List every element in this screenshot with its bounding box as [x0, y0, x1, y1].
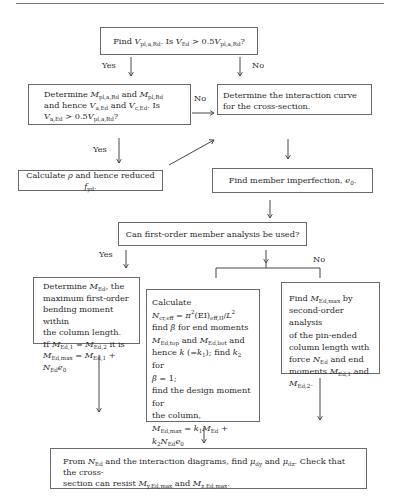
- label-no-1: No: [252, 60, 264, 70]
- node-second-order: Find MEd,max by second-order analysis of…: [281, 282, 380, 374]
- label-no-3: No: [313, 254, 325, 264]
- node-imperfection: Find member imperfection, e0.: [212, 168, 373, 193]
- node-calculate-ncr: Calculate Ncr,eff = π2(EI)eff,II/L2 find…: [146, 289, 260, 422]
- node-calc-rho: Calculate ρ and hence reduced fyd.: [18, 170, 163, 191]
- node-interaction-curve: Determine the interaction curve for the …: [217, 84, 372, 115]
- node-first-order-yes: Determine MEd, the maximum first-order b…: [33, 277, 140, 344]
- label-yes-3: Yes: [99, 249, 113, 259]
- node-first-order: Can first-order member analysis be used?: [118, 222, 307, 246]
- node-final-check: From NEd and the interaction diagrams, f…: [50, 448, 367, 489]
- node-find-vpl-text: Find Vpl,a,Rd. Is VEd > 0.5Vpl,a,Rd?: [113, 36, 245, 47]
- label-no-2: No: [194, 93, 206, 103]
- label-yes-2: Yes: [93, 144, 107, 154]
- node-determine-mpl: Determine Mpl,a,Rd and Mpl,Rd and hence …: [28, 84, 191, 125]
- label-yes-1: Yes: [102, 60, 116, 70]
- node-find-vpl: Find Vpl,a,Rd. Is VEd > 0.5Vpl,a,Rd?: [100, 27, 258, 55]
